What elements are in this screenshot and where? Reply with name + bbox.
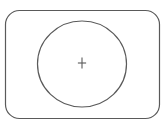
diagram-canvas	[0, 0, 165, 123]
diagram-svg	[0, 0, 165, 123]
